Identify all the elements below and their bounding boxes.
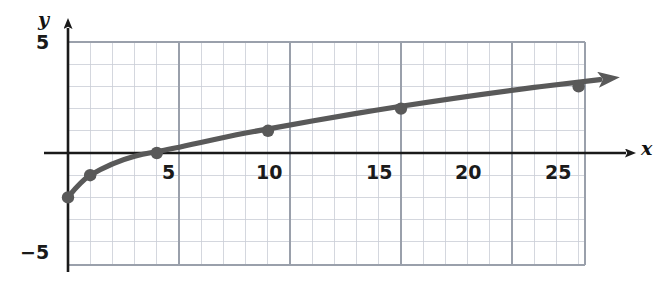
data-point bbox=[62, 191, 74, 203]
data-point bbox=[262, 125, 274, 137]
x-axis-tick-label-5: 5 bbox=[162, 163, 175, 182]
data-points bbox=[62, 80, 585, 203]
x-axis-tick-label-25: 25 bbox=[545, 163, 571, 182]
coordinate-plane-figure: 5 10 15 20 25 5 −5 x y bbox=[0, 0, 658, 294]
x-axis-tick-label-20: 20 bbox=[455, 163, 481, 182]
x-axis-tick-label-10: 10 bbox=[256, 163, 282, 182]
y-axis-tick-label-negative-5: −5 bbox=[20, 243, 49, 262]
x-axis-label: x bbox=[641, 139, 652, 158]
data-point bbox=[84, 169, 96, 181]
y-axis-label: y bbox=[38, 10, 49, 29]
data-point bbox=[151, 147, 163, 159]
data-point bbox=[395, 102, 407, 114]
chart-canvas bbox=[0, 0, 658, 294]
x-axis-tick-label-15: 15 bbox=[366, 163, 392, 182]
y-axis-tick-label-5: 5 bbox=[36, 33, 49, 52]
data-point bbox=[572, 80, 584, 92]
